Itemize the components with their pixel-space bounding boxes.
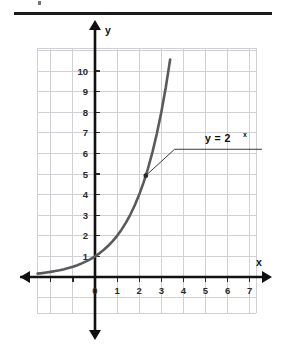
y-tick-label: 2 [83,230,88,241]
gridlines [37,48,256,313]
y-tick-label: 6 [83,148,88,159]
y-axis-arrow-down [89,330,101,340]
y-tick-label: 9 [83,86,88,97]
y-tick-label: 10 [77,66,88,77]
exponential-function-figure: 01234567 12345678910 x y y = 2 x [0,0,285,350]
y-tick-label: 4 [83,189,89,200]
y-axis-tick-labels: 12345678910 [77,66,88,262]
y-tick-label: 8 [83,107,88,118]
x-tick-label: 2 [137,285,142,296]
x-tick-label: 3 [159,285,164,296]
graph-svg: 01234567 12345678910 x y y = 2 x [0,0,285,350]
equation-label-base: y = 2 [205,132,231,144]
y-tick-label: 7 [83,127,88,138]
x-tick-label: 7 [247,285,252,296]
equation-label-exponent: x [243,131,247,138]
x-tick-label: 5 [203,285,209,296]
x-axis-arrow-left [20,271,30,283]
x-tick-label: 6 [225,285,230,296]
x-axis-label: x [256,256,262,268]
y-tick-label: 5 [83,169,89,180]
y-tick-label: 3 [83,210,88,221]
y-axis-label: y [105,24,111,36]
x-tick-label: 1 [114,285,120,296]
x-axis-arrow-right [262,271,272,283]
annotation-anchor-point [143,173,148,178]
x-axis-tick-labels: 01234567 [92,285,252,296]
x-tick-label: 0 [92,285,97,296]
x-tick-label: 4 [181,285,187,296]
y-axis-arrow-up [89,20,101,30]
